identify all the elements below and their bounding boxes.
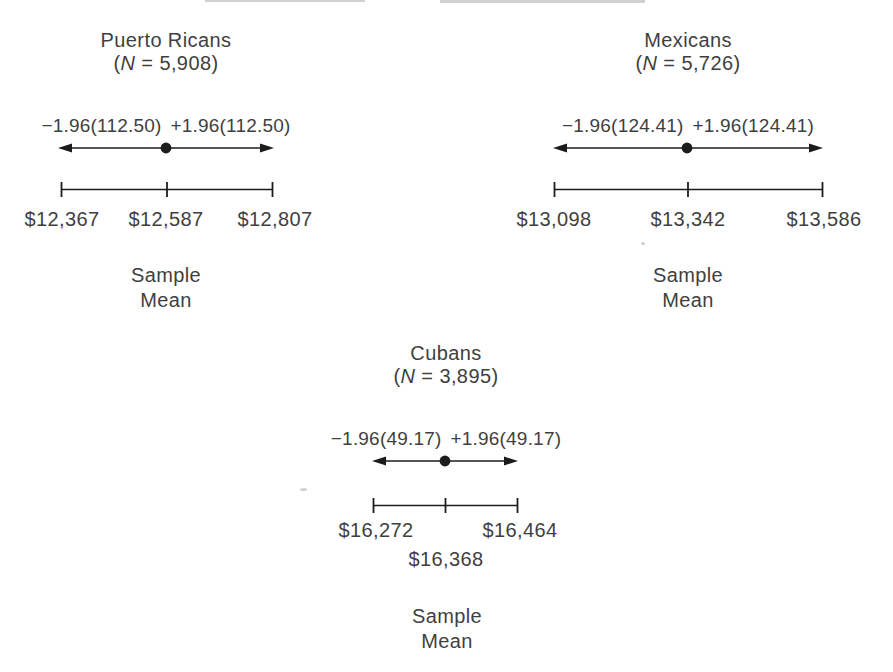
upper-bound-puerto-ricans: $12,807 <box>237 208 312 231</box>
ci-expression-mexicans: −1.96(124.41) +1.96(124.41) <box>562 115 814 137</box>
sample-size-cubans: (N = 3,895) <box>393 365 498 388</box>
caption-line-2: Mean <box>412 629 482 654</box>
caption-line-2: Mean <box>131 288 201 313</box>
ci-arrow-mexicans <box>552 139 824 157</box>
minus-term: −1.96(49.17) <box>331 428 442 450</box>
paren-open: ( <box>393 365 400 387</box>
caption-line-1: Sample <box>412 604 482 629</box>
mean-value-puerto-ricans: $12,587 <box>128 208 203 231</box>
n-value-text: = 5,908) <box>135 52 218 74</box>
ci-expression-cubans: −1.96(49.17) +1.96(49.17) <box>331 428 561 450</box>
paren-open: ( <box>635 52 642 74</box>
caption-line-1: Sample <box>131 263 201 288</box>
lower-bound-cubans: $16,272 <box>338 519 413 542</box>
n-value-text: = 5,726) <box>657 52 740 74</box>
figure-canvas: Puerto Ricans (N = 5,908) −1.96(112.50) … <box>0 0 893 672</box>
interval-line-mexicans <box>553 181 824 198</box>
ci-expression-puerto-ricans: −1.96(112.50) +1.96(112.50) <box>41 115 290 137</box>
interval-line-cubans <box>372 497 519 514</box>
scan-speck <box>300 488 307 491</box>
ci-arrow-puerto-ricans <box>57 139 275 157</box>
minus-term: −1.96(112.50) <box>41 115 161 137</box>
sample-size-puerto-ricans: (N = 5,908) <box>113 52 218 75</box>
scan-artifact <box>440 0 645 3</box>
n-symbol: N <box>401 365 416 387</box>
caption-line-1: Sample <box>653 263 723 288</box>
sample-mean-caption-cubans: Sample Mean <box>412 604 482 654</box>
lower-bound-puerto-ricans: $12,367 <box>24 208 99 231</box>
group-title-cubans: Cubans <box>410 342 481 365</box>
n-symbol: N <box>643 52 658 74</box>
caption-line-2: Mean <box>653 288 723 313</box>
scan-artifact <box>205 0 365 2</box>
mean-value-mexicans: $13,342 <box>650 208 725 231</box>
n-symbol: N <box>121 52 136 74</box>
plus-term: +1.96(49.17) <box>451 428 562 450</box>
minus-term: −1.96(124.41) <box>562 115 683 137</box>
plus-term: +1.96(112.50) <box>171 115 291 137</box>
sample-mean-caption-puerto-ricans: Sample Mean <box>131 263 201 313</box>
group-title-puerto-ricans: Puerto Ricans <box>101 29 232 52</box>
group-title-mexicans: Mexicans <box>644 29 732 52</box>
paren-open: ( <box>113 52 120 74</box>
sample-mean-caption-mexicans: Sample Mean <box>653 263 723 313</box>
scan-speck <box>641 242 645 245</box>
interval-line-puerto-ricans <box>60 181 274 198</box>
upper-bound-cubans: $16,464 <box>482 519 557 542</box>
n-value-text: = 3,895) <box>415 365 498 387</box>
lower-bound-mexicans: $13,098 <box>516 208 591 231</box>
sample-size-mexicans: (N = 5,726) <box>635 52 740 75</box>
mean-value-cubans: $16,368 <box>408 548 483 571</box>
plus-term: +1.96(124.41) <box>693 115 814 137</box>
upper-bound-mexicans: $13,586 <box>786 208 861 231</box>
ci-arrow-cubans <box>371 452 519 470</box>
